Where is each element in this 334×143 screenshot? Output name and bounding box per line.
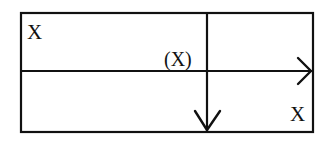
label-bottom-right: X xyxy=(290,104,305,125)
label-top-left: X xyxy=(27,22,42,43)
label-center-parenthesized: (X) xyxy=(164,49,192,69)
diagram-canvas xyxy=(0,0,334,143)
outer-frame xyxy=(21,13,313,132)
